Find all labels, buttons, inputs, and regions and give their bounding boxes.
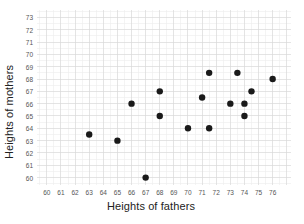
data-point [128,100,134,106]
data-point [206,70,212,76]
y-tick-label: 60 [15,174,33,181]
x-tick-label: 71 [198,189,205,196]
x-tick-label: 70 [184,189,191,196]
data-point [206,125,212,131]
data-point [157,88,163,94]
y-tick-label: 71 [15,39,33,46]
data-point [269,76,275,82]
data-point [142,174,148,180]
y-tick-label: 64 [15,125,33,132]
y-tick-label: 73 [15,14,33,21]
x-tick-label: 60 [43,189,50,196]
data-point [86,131,92,137]
y-tick-label: 70 [15,51,33,58]
y-tick-label: 68 [15,76,33,83]
x-tick-label: 64 [100,189,107,196]
x-tick-label: 61 [57,189,64,196]
data-point [185,125,191,131]
x-tick-label: 72 [213,189,220,196]
x-tick-label: 67 [142,189,149,196]
x-tick-label: 75 [255,189,262,196]
y-tick-label: 72 [15,26,33,33]
data-point [234,70,240,76]
data-point [157,113,163,119]
x-tick-label: 62 [71,189,78,196]
y-tick-label: 66 [15,100,33,107]
y-tick-label: 62 [15,149,33,156]
y-tick-label: 67 [15,88,33,95]
y-tick-label: 69 [15,63,33,70]
data-point [241,113,247,119]
data-point [114,137,120,143]
plot-area [37,10,291,185]
x-tick-label: 69 [170,189,177,196]
y-tick-label: 63 [15,137,33,144]
x-tick-label: 65 [114,189,121,196]
x-tick-label: 74 [241,189,248,196]
x-axis-title: Heights of fathers [36,200,266,212]
data-point [227,100,233,106]
data-point [199,94,205,100]
x-tick-label: 73 [227,189,234,196]
y-tick-label: 61 [15,162,33,169]
data-point [241,100,247,106]
x-tick-label: 63 [86,189,93,196]
data-points-layer [37,10,291,185]
x-tick-label: 68 [156,189,163,196]
y-tick-label: 65 [15,112,33,119]
scatter-plot-figure: Heights of mothers Heights of fathers 60… [0,0,304,224]
x-tick-label: 66 [128,189,135,196]
data-point [248,88,254,94]
x-tick-label: 76 [269,189,276,196]
